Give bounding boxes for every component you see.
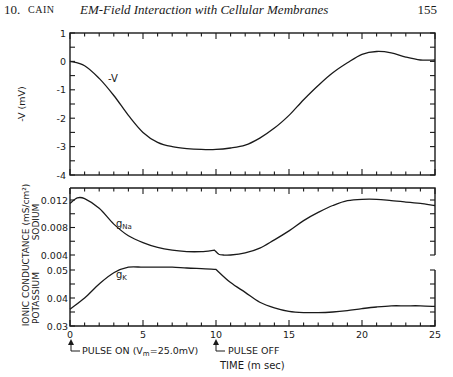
sodium-y-tick-label: 0.008 — [41, 222, 68, 233]
x-axis-label: TIME (m sec) — [219, 360, 285, 371]
top-y-tick-label: -3 — [57, 141, 66, 152]
gna-curve-label: gNa — [116, 218, 132, 231]
sodium-y-tick-label: 0.012 — [41, 195, 68, 206]
top-y-tick-label: -4 — [57, 170, 66, 181]
sodium-label: SODIUM — [31, 204, 41, 241]
top-y-tick-label: -1 — [57, 84, 66, 95]
pulse-on-annotation: PULSE ON (Vm=25.0mV) — [68, 339, 198, 358]
pulse-off-annotation: PULSE OFF — [213, 339, 279, 356]
bottom-plot-frame — [70, 188, 435, 326]
potassium-y-tick-label: 0.05 — [47, 265, 68, 276]
x-tick-label: 15 — [283, 329, 295, 340]
gk-curve-label: gK — [116, 269, 127, 282]
x-tick-label: 5 — [140, 329, 146, 340]
top-y-tick-label: 1 — [60, 28, 66, 39]
potassium-y-tick-label: 0.04 — [47, 293, 68, 304]
potassium-y-tick-label: 0.03 — [47, 321, 68, 332]
x-tick-label: 20 — [356, 329, 368, 340]
potassium-label: POTASSIUM — [31, 272, 41, 324]
top-y-tick-label: 0 — [60, 56, 66, 67]
bottom-y-axis-label: IONIC CONDUCTANCE (mS/cm²) — [21, 184, 31, 327]
top-y-axis-label: -V (mV) — [16, 86, 27, 122]
voltage-curve — [70, 51, 435, 149]
v-curve-label: -V — [108, 73, 118, 84]
svg-text:PULSE ON (Vm=25.0mV): PULSE ON (Vm=25.0mV) — [82, 345, 198, 358]
x-tick-label: 25 — [429, 329, 441, 340]
x-tick-label: 10 — [210, 329, 222, 340]
svg-text:PULSE OFF: PULSE OFF — [228, 345, 279, 356]
x-tick-label: 0 — [67, 329, 73, 340]
sodium-y-tick-label: 0.004 — [41, 250, 68, 261]
figure: 10-1-2-3-40.0120.0080.0040.050.040.03051… — [0, 0, 453, 377]
top-plot-frame — [70, 33, 435, 175]
top-y-tick-label: -2 — [57, 113, 66, 124]
